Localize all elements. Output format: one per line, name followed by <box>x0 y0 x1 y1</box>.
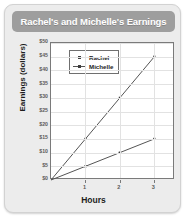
x-axis-tick-label: 1 <box>76 184 92 190</box>
y-axis-tick-label: $30 <box>31 94 48 99</box>
data-line-michelle <box>51 57 154 180</box>
y-axis-title: Earnings (dollars) <box>18 23 27 133</box>
y-axis-tick-label: $0 <box>31 176 48 181</box>
gridline-vertical <box>154 43 155 178</box>
y-axis-tick-label: $45 <box>31 53 48 58</box>
y-axis-tick-label: $15 <box>31 135 48 140</box>
y-axis-tick-label: $35 <box>31 81 48 86</box>
x-axis-tick-mark <box>154 180 155 183</box>
y-axis-tick-label: $50 <box>31 39 48 44</box>
y-axis-tick-label: $40 <box>31 67 48 72</box>
y-axis-tick-label: $10 <box>31 149 48 154</box>
chart-card: Rachel's and Michelle's Earnings $0$5$10… <box>4 4 181 213</box>
gridline-vertical <box>120 43 121 178</box>
legend-label: Michelle <box>89 63 113 70</box>
y-axis-tick-labels: $0$5$10$15$20$25$30$35$40$45$50 <box>29 5 48 213</box>
x-axis-tick-mark <box>120 180 121 183</box>
data-line-rachel <box>51 139 154 180</box>
y-axis-tick-label: $5 <box>31 163 48 168</box>
x-axis-tick-label: 2 <box>111 184 127 190</box>
line-marker-icon <box>73 63 86 70</box>
plot-area: Rachel Michelle <box>50 42 174 179</box>
y-axis-tick-label: $20 <box>31 122 48 127</box>
x-axis-tick-mark <box>85 180 86 183</box>
x-axis-tick-label: 3 <box>145 184 161 190</box>
x-axis-title: Hours <box>5 195 181 205</box>
y-axis-tick-label: $25 <box>31 108 48 113</box>
gridline-vertical <box>85 43 86 178</box>
